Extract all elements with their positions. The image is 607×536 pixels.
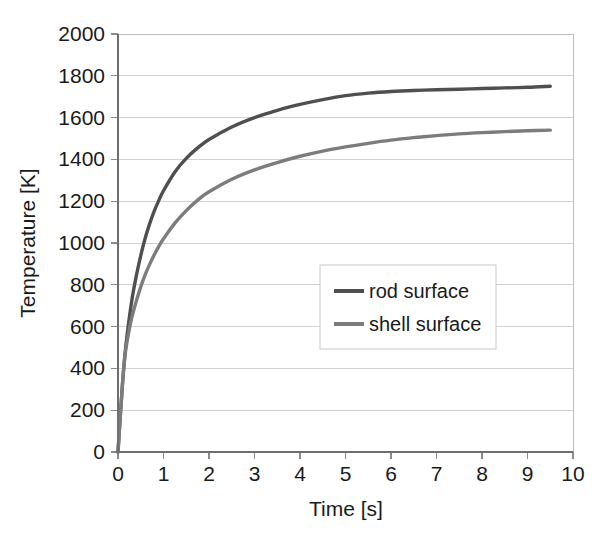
y-tick-label-0: 0	[93, 440, 105, 463]
x-tick-label-4: 4	[294, 462, 306, 485]
x-tick-label-6: 6	[385, 462, 397, 485]
x-tick-label-7: 7	[431, 462, 443, 485]
x-tick-label-9: 9	[522, 462, 534, 485]
y-tick-label-1200: 1200	[58, 189, 105, 212]
y-tick-label-1600: 1600	[58, 106, 105, 129]
x-tick-label-10: 10	[561, 462, 584, 485]
legend-label-rod-surface: rod surface	[369, 280, 469, 302]
y-tick-label-1400: 1400	[58, 147, 105, 170]
y-tick-label-200: 200	[70, 398, 105, 421]
x-tick-label-8: 8	[476, 462, 488, 485]
y-axis-title: Temperature [K]	[16, 168, 39, 317]
x-tick-label-1: 1	[158, 462, 170, 485]
y-tick-label-400: 400	[70, 356, 105, 379]
chart-figure: 0200400600800100012001400160018002000 01…	[0, 0, 607, 536]
x-tick-label-5: 5	[340, 462, 352, 485]
temperature-vs-time-line-chart: 0200400600800100012001400160018002000 01…	[0, 0, 607, 536]
y-tick-label-2000: 2000	[58, 22, 105, 45]
x-tick-label-3: 3	[249, 462, 261, 485]
x-tick-label-0: 0	[112, 462, 124, 485]
y-tick-label-1800: 1800	[58, 64, 105, 87]
y-tick-label-800: 800	[70, 273, 105, 296]
legend-label-shell-surface: shell surface	[369, 313, 481, 335]
y-tick-label-600: 600	[70, 315, 105, 338]
x-axis-title: Time [s]	[309, 497, 383, 520]
x-tick-label-2: 2	[203, 462, 215, 485]
chart-legend: rod surfaceshell surface	[320, 265, 496, 349]
legend-box	[320, 265, 496, 349]
y-tick-label-1000: 1000	[58, 231, 105, 254]
